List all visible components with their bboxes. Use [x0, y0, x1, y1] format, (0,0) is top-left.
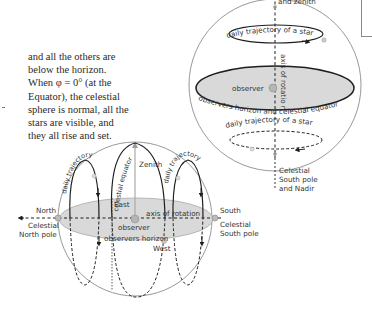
- west-label: West: [153, 244, 171, 253]
- observer-dot: [269, 84, 277, 92]
- south-pole-nadir-label-1: Celestial: [279, 166, 310, 175]
- left-trajectory-label: daily trajectory of a star: [0, 0, 96, 194]
- right-trajectory-label: daily trajectory of a star: [0, 0, 202, 184]
- zenith-pole-dot: [273, 5, 277, 9]
- axis-label: axis of rotatio n: [279, 54, 288, 110]
- north-pole-label-1: Celestial: [28, 221, 59, 230]
- zenith-label: Zenith: [139, 160, 162, 169]
- star-icon: [176, 176, 180, 180]
- north-pole-label-2: North pole: [19, 230, 57, 239]
- south-pole-dot: [212, 215, 218, 221]
- left-sphere: Zenith celestial equator daily trajector…: [0, 0, 259, 297]
- south-pole-nadir-label-2: South pole: [279, 175, 318, 184]
- east-label: East: [114, 200, 130, 209]
- south-pole-nadir-label-3: and Nadir: [279, 184, 314, 193]
- south-label: South: [220, 206, 241, 215]
- observer-label: observer: [232, 84, 264, 93]
- north-label: North: [36, 206, 56, 215]
- top-pole-label: and zenith: [278, 0, 316, 6]
- lower-star-trajectory: [230, 131, 322, 149]
- right-sphere: daily trajectory of a star and zenith ax…: [189, 0, 361, 193]
- star-icon: [250, 147, 254, 151]
- lower-trajectory-label: daily trajectory of a star: [224, 115, 313, 130]
- horizon-label: observers horizon: [104, 234, 168, 243]
- axis-label: axis of rotation: [146, 209, 200, 218]
- observer-label: observer: [118, 223, 150, 232]
- south-pole-label-2: South pole: [220, 229, 259, 238]
- south-pole-label-1: Celestial: [220, 220, 251, 229]
- star-icon: [92, 174, 96, 178]
- observer-dot: [131, 215, 139, 223]
- upper-trajectory-label: daily trajectory of a star: [225, 25, 314, 40]
- star-icon: [322, 38, 326, 42]
- nadir-pole-dot: [273, 152, 277, 156]
